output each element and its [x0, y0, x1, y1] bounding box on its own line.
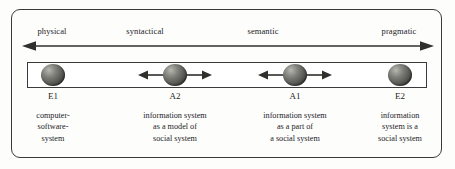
node-description-e2: information system is a social system	[378, 110, 422, 144]
node-sphere-e2	[388, 64, 412, 86]
system-band-rectangle	[27, 62, 427, 88]
double-headed-arrow-icon	[22, 39, 434, 53]
node-description-a1-line1: information system	[263, 110, 326, 121]
node-description-a1-line2: as a part of	[263, 121, 326, 132]
node-description-e1-line3: system	[36, 133, 69, 144]
axis-label-semantic: semantic	[247, 26, 278, 36]
axis-label-pragmatic: pragmatic	[382, 26, 417, 36]
node-description-a1: information system as a part of a social…	[263, 110, 326, 144]
node-description-e1: computer- software- system	[36, 110, 69, 144]
node-description-e2-line1: information	[378, 110, 422, 121]
axis-label-physical: physical	[37, 26, 66, 36]
node-sphere-a1	[283, 64, 307, 86]
node-description-e2-line3: social system	[378, 133, 422, 144]
node-description-a2-line2: as a model of	[143, 121, 206, 132]
node-sphere-a2	[163, 64, 187, 86]
axis-label-syntactical: syntactical	[126, 26, 163, 36]
node-id-a1: A1	[290, 91, 301, 102]
node-description-a1-line3: a social system	[263, 133, 326, 144]
node-description-a2: information system as a model of social …	[143, 110, 206, 144]
node-id-e1: E1	[48, 91, 58, 102]
node-sphere-e1	[41, 64, 65, 86]
node-description-e1-line1: computer-	[36, 110, 69, 121]
node-id-a2: A2	[170, 91, 181, 102]
node-description-a2-line3: social system	[143, 133, 206, 144]
node-id-e2: E2	[395, 91, 405, 102]
node-description-e2-line2: system is a	[378, 121, 422, 132]
node-description-a2-line1: information system	[143, 110, 206, 121]
node-description-e1-line2: software-	[36, 121, 69, 132]
semiotic-ladder-figure: physical syntactical semantic pragmatic	[0, 0, 455, 169]
